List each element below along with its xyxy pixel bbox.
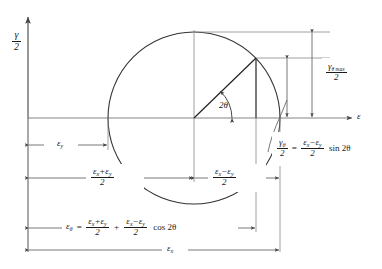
dim-label-epsilon-x: εx bbox=[167, 244, 173, 254]
dim-epsilon-x-sub: x bbox=[171, 248, 174, 254]
dim-mean-den: 2 bbox=[91, 177, 114, 187]
eq-eps-t1-sub2: y bbox=[104, 221, 107, 227]
y-axis-label: γ 2 bbox=[12, 30, 21, 52]
dim-label-epsilon-y: εy bbox=[57, 139, 63, 149]
dim-radius-den: 2 bbox=[213, 177, 236, 187]
eq-eps-t2-sub2: y bbox=[142, 221, 145, 227]
eq-shear-trig: sin 2θ bbox=[326, 144, 351, 153]
shear-theta-equation: γθ 2 = εx−εy 2 sin 2θ bbox=[277, 138, 351, 159]
eq-shear-rhs-den: 2 bbox=[301, 148, 324, 158]
dim-label-radius: εx−εy 2 bbox=[213, 167, 236, 188]
eq-eps-t1-den: 2 bbox=[86, 227, 109, 237]
eq-shear-lhs-den: 2 bbox=[277, 148, 288, 158]
eq-eps-lhs-sub: θ bbox=[70, 226, 73, 232]
shear-max-numerator-sub: θ max bbox=[332, 66, 345, 72]
y-axis-label-denominator: 2 bbox=[12, 41, 21, 53]
dim-radius-sub2: y bbox=[231, 171, 234, 177]
eq-eps-trig: cos 2θ bbox=[149, 223, 176, 232]
x-axis-label: ε bbox=[357, 112, 361, 121]
mohr-circle-figure bbox=[0, 0, 382, 269]
eq-eps-equals: = bbox=[75, 223, 84, 232]
shear-max-label: γθ max 2 bbox=[326, 62, 347, 83]
y-axis-label-numerator: γ bbox=[12, 30, 21, 41]
eq-shear-lhs-num-sub: θ bbox=[283, 142, 286, 148]
eq-shear-rhs-sub2: y bbox=[319, 142, 322, 148]
epsilon-theta-equation: εθ = εx+εy 2 + εx−εy 2 cos 2θ bbox=[66, 217, 176, 238]
eq-eps-plus: + bbox=[111, 223, 122, 232]
shear-max-denominator: 2 bbox=[326, 72, 347, 82]
angle-label-2theta: 2θ bbox=[219, 101, 228, 110]
dim-mean-sub2: y bbox=[109, 171, 112, 177]
dim-epsilon-y-sub: y bbox=[61, 143, 64, 149]
eq-shear-equals: = bbox=[290, 144, 299, 153]
dim-label-mean-strain: εx+εy 2 bbox=[91, 167, 114, 188]
eq-eps-t2-den: 2 bbox=[124, 227, 147, 237]
